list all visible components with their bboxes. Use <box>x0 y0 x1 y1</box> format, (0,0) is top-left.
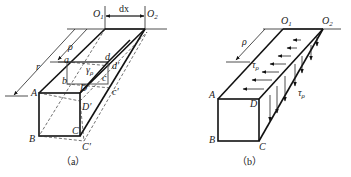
label-dx: dx <box>119 3 129 14</box>
label-r: r <box>36 61 40 72</box>
label-B: B <box>29 133 35 144</box>
label-D-b: D <box>249 98 258 109</box>
dash-A-Dprime <box>39 93 80 101</box>
label-A-b: A <box>208 89 216 100</box>
label-gamma: γρ <box>86 64 94 77</box>
figure-b: O1 O2 ρ τρ τρ A D B C （b） <box>208 15 341 167</box>
figure-a: O1 O2 dx r ρ a d d′ b c c′ γρ A D D′ B C… <box>5 3 167 167</box>
label-b: b <box>62 75 67 86</box>
label-O1-b: O1 <box>281 15 292 28</box>
caption-a: （a） <box>61 156 85 167</box>
label-d-prime: d′ <box>112 60 120 71</box>
edge-D-O2-b <box>259 29 323 99</box>
label-D: D <box>79 82 88 93</box>
label-C-prime: C′ <box>82 141 92 152</box>
label-B-b: B <box>209 134 215 145</box>
label-D-prime: D′ <box>81 101 92 112</box>
label-C: C <box>72 125 79 136</box>
label-O2-b: O2 <box>322 15 333 28</box>
label-c: c <box>102 72 107 83</box>
torsion-element-diagram: O1 O2 dx r ρ a d d′ b c c′ γρ A D D′ B C… <box>0 0 351 177</box>
rho-dimension-line-b <box>236 29 265 60</box>
label-A: A <box>30 87 38 98</box>
label-tau-side: τρ <box>298 87 306 100</box>
edge-C-O2-b <box>259 29 323 141</box>
label-rho-b: ρ <box>241 36 247 47</box>
edge-A-O1 <box>39 29 105 93</box>
label-O1: O1 <box>93 8 104 21</box>
label-C-b: C <box>259 141 266 152</box>
label-c-prime: c′ <box>112 86 119 97</box>
label-a: a <box>64 54 69 65</box>
label-O2: O2 <box>147 8 158 21</box>
label-tau-top: τρ <box>252 59 260 72</box>
caption-b: （b） <box>237 156 262 167</box>
label-rho: ρ <box>67 41 73 52</box>
